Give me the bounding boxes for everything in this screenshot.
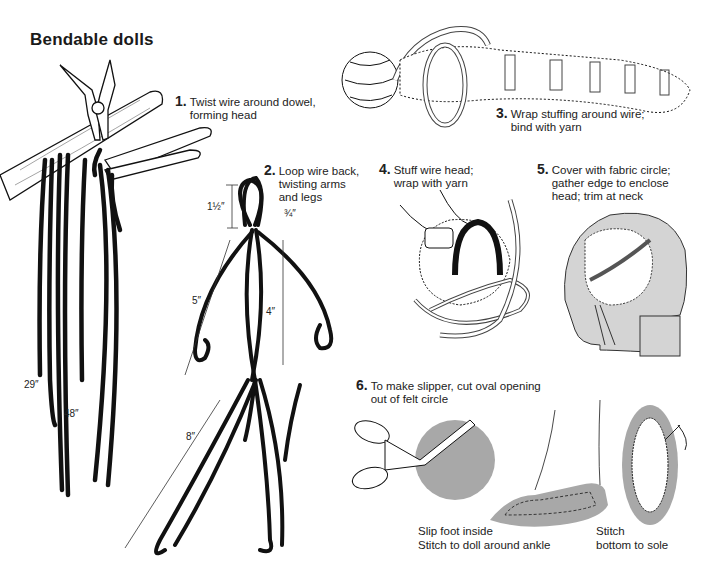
step-text-line: wrap with yarn [394, 177, 468, 189]
step-2: 2.Loop wire back,twisting armsand legs [264, 164, 359, 204]
fabric-head-illustration [565, 213, 687, 356]
measure-wire-long: 48″ [64, 408, 79, 419]
wire-figure-illustration [156, 178, 331, 553]
step-number: 1. [175, 93, 187, 109]
illustration-canvas [0, 0, 714, 575]
step-5: 5.Cover with fabric circle;gather edge t… [537, 163, 671, 203]
step-text-line: forming head [190, 109, 257, 121]
dowel-illustration [0, 91, 163, 200]
felt-circle-scissors-illustration [350, 416, 495, 500]
caption-line: bottom to sole [596, 539, 668, 551]
step-number: 3. [496, 105, 508, 121]
step-3: 3.Wrap stuffing around wire;bind with ya… [496, 107, 645, 134]
step-4: 4.Stuff wire head;wrap with yarn [379, 163, 473, 190]
measure-wire-short: 29″ [24, 379, 39, 390]
measure-arm: 5″ [192, 295, 201, 306]
step-text-line: twisting arms [279, 178, 346, 190]
measure-torso: 4″ [266, 306, 275, 317]
step-number: 6. [356, 377, 368, 393]
page-title: Bendable dolls [30, 30, 154, 50]
step-text-line: gather edge to enclose [552, 177, 669, 189]
hanging-wires-illustration [40, 150, 120, 495]
step-text-line: Wrap stuffing around wire; [511, 108, 645, 120]
step-text-line: Cover with fabric circle; [552, 164, 671, 176]
slipper-foot-illustration [490, 400, 608, 527]
measure-neck: ¾″ [284, 208, 296, 219]
slipper-sole-illustration [622, 405, 686, 525]
step-text-line: bind with yarn [511, 121, 582, 133]
step-text-line: head; trim at neck [552, 190, 643, 202]
step-text-line: Stuff wire head; [394, 164, 474, 176]
measure-leg: 8″ [186, 431, 195, 442]
caption-line: Slip foot inside [418, 525, 493, 537]
stuffed-head-illustration [400, 190, 528, 336]
step-1: 1.Twist wire around dowel,forming head [175, 95, 316, 122]
step-number: 4. [379, 161, 391, 177]
step-6: 6.To make slipper, cut oval openingout o… [356, 379, 541, 406]
step-text-line: and legs [279, 191, 322, 203]
step-number: 2. [264, 162, 276, 178]
step-number: 5. [537, 161, 549, 177]
caption-slipper-sole: Stitch bottom to sole [596, 524, 668, 552]
caption-line: Stitch to doll around ankle [418, 539, 550, 551]
step-text-line: To make slipper, cut oval opening [371, 380, 541, 392]
step-text-line: Loop wire back, [279, 165, 360, 177]
caption-line: Stitch [596, 525, 625, 537]
measure-head: 1½″ [207, 201, 224, 212]
caption-slipper-foot: Slip foot inside Stitch to doll around a… [418, 524, 550, 552]
step-text-line: Twist wire around dowel, [190, 96, 316, 108]
step-text-line: out of felt circle [371, 393, 448, 405]
